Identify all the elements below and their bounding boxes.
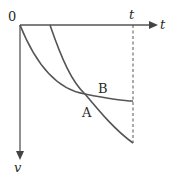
velocity-time-diagram: 0 t t v B A xyxy=(0,0,173,179)
curve-b xyxy=(20,25,133,101)
curve-a-label: A xyxy=(81,105,92,120)
time-marker-label: t xyxy=(129,7,135,22)
origin-label: 0 xyxy=(8,9,16,24)
curve-b-label: B xyxy=(98,81,108,96)
v-axis-arrowhead xyxy=(16,151,24,160)
v-axis-label: v xyxy=(14,160,22,175)
t-axis-arrowhead xyxy=(149,21,158,29)
t-axis-label: t xyxy=(160,17,166,32)
curve-a xyxy=(50,25,133,143)
